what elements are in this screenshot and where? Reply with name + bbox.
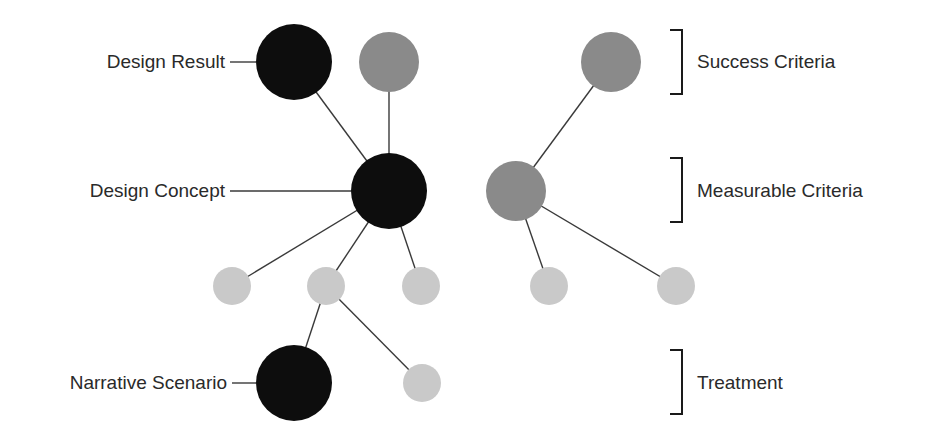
label-treatment: Treatment: [697, 372, 783, 394]
node-design-result: [256, 24, 332, 100]
edge-light-2-to-light-4: [326, 286, 422, 383]
node-light-6: [657, 267, 695, 305]
label-narrative-scenario: Narrative Scenario: [70, 372, 227, 394]
node-top-gray: [359, 32, 419, 92]
node-design-concept: [351, 153, 427, 229]
label-design-concept: Design Concept: [90, 180, 225, 202]
bracket-icon: [670, 30, 682, 94]
node-light-3: [402, 267, 440, 305]
node-light-5: [530, 267, 568, 305]
node-light-4: [403, 364, 441, 402]
label-measurable-criteria: Measurable Criteria: [697, 180, 863, 202]
label-leader-lines: [230, 62, 351, 383]
nodes: [213, 24, 695, 421]
node-success-criteria-node: [581, 32, 641, 92]
label-success-criteria: Success Criteria: [697, 51, 835, 73]
brackets: [670, 30, 682, 414]
node-light-2: [307, 267, 345, 305]
node-measurable-criteria-node: [486, 161, 546, 221]
bracket-icon: [670, 350, 682, 414]
bracket-icon: [670, 158, 682, 222]
label-design-result: Design Result: [107, 51, 225, 73]
edges: [232, 62, 676, 383]
node-light-1: [213, 267, 251, 305]
node-narrative-scenario: [256, 345, 332, 421]
